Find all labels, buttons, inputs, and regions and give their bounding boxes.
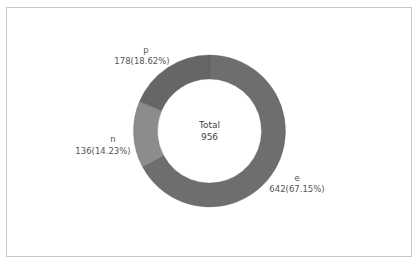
label-p-value: 178(18.62%) — [114, 56, 169, 66]
label-e-name: e — [294, 173, 299, 183]
label-n-value: 136(14.23%) — [75, 146, 130, 156]
label-n-name: n — [110, 134, 115, 144]
total-value: 956 — [201, 132, 218, 142]
label-e-value: 642(67.15%) — [269, 184, 324, 194]
total-title: Total — [198, 120, 220, 130]
donut-segment-n[interactable] — [134, 101, 164, 167]
label-p-name: p — [143, 45, 148, 55]
donut-chart: Total 956 p 178(18.62%) n 136(14.23%) e … — [0, 0, 418, 262]
